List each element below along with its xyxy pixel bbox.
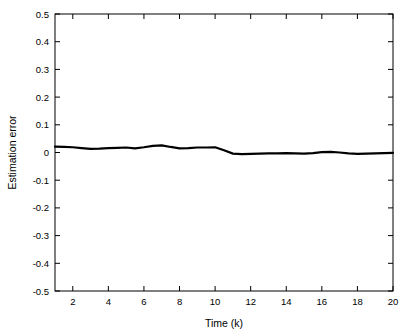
x-tick-label: 20 — [388, 296, 399, 307]
y-tick-label: -0.5 — [33, 286, 49, 297]
y-tick-label: 0.5 — [36, 9, 49, 20]
y-tick-label: 0.1 — [36, 119, 49, 130]
y-tick-label: 0.4 — [36, 36, 49, 47]
x-tick-label: 4 — [106, 296, 111, 307]
x-axis-title: Time (k) — [205, 317, 243, 329]
y-tick-label: -0.4 — [33, 258, 49, 269]
x-tick-label: 2 — [70, 296, 75, 307]
y-axis-title: Estimation error — [6, 115, 18, 190]
y-tick-label: -0.1 — [33, 175, 49, 186]
x-tick-label: 10 — [210, 296, 221, 307]
y-tick-label: 0 — [44, 147, 49, 158]
x-tick-label: 18 — [352, 296, 363, 307]
estimation-error-chart: 2468101214161820-0.5-0.4-0.3-0.2-0.100.1… — [0, 0, 412, 336]
x-tick-label: 12 — [245, 296, 256, 307]
y-tick-label: 0.3 — [36, 64, 49, 75]
x-tick-label: 8 — [177, 296, 182, 307]
y-tick-label: -0.2 — [33, 202, 49, 213]
y-tick-label: 0.2 — [36, 92, 49, 103]
x-tick-label: 14 — [281, 296, 292, 307]
x-tick-label: 6 — [141, 296, 146, 307]
figure-container: 2468101214161820-0.5-0.4-0.3-0.2-0.100.1… — [0, 0, 412, 336]
x-tick-label: 16 — [317, 296, 328, 307]
y-tick-label: -0.3 — [33, 230, 49, 241]
